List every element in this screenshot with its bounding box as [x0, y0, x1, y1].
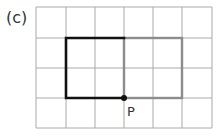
- grid-figure: (c) P: [0, 0, 222, 137]
- point-p-label: P: [127, 104, 135, 119]
- figure-label: (c): [6, 8, 27, 27]
- point-p: [121, 95, 127, 101]
